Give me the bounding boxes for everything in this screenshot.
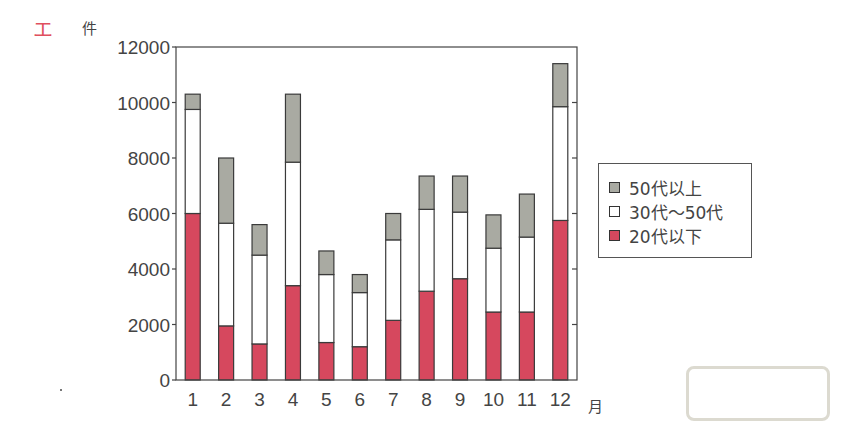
bar-segment xyxy=(185,109,200,213)
scan-speck xyxy=(60,389,62,391)
legend-item-20s-and-under: 20代以下 xyxy=(609,225,702,245)
x-tick-label: 9 xyxy=(455,390,466,409)
bar-segment xyxy=(252,344,267,380)
legend-item-30s-to-50s: 30代～50代 xyxy=(609,201,723,221)
y-tick-label: 2000 xyxy=(128,315,170,334)
bar-segment xyxy=(285,94,300,162)
legend-swatch-gray-icon xyxy=(609,182,620,193)
bar-segment xyxy=(519,194,534,237)
bar-segment xyxy=(386,320,401,380)
bar-segment xyxy=(486,248,501,312)
x-tick-label: 4 xyxy=(288,390,299,409)
bar-segment xyxy=(553,64,568,107)
x-tick-label: 10 xyxy=(483,390,504,409)
plot-frame xyxy=(176,47,577,380)
bar-segment xyxy=(252,255,267,344)
bar-segment xyxy=(419,291,434,380)
bar-segment xyxy=(486,312,501,380)
y-tick-label: 6000 xyxy=(128,204,170,223)
x-tick-label: 2 xyxy=(221,390,232,409)
bar-segment xyxy=(486,215,501,248)
bar-segment xyxy=(419,176,434,209)
bar-segment xyxy=(219,326,234,380)
bar-segment xyxy=(352,347,367,380)
bar-segment xyxy=(352,293,367,347)
x-tick-label: 5 xyxy=(321,390,332,409)
y-tick-label: 4000 xyxy=(128,260,170,279)
x-tick-label: 1 xyxy=(187,390,198,409)
legend-swatch-white-icon xyxy=(609,206,620,217)
bar-segment xyxy=(519,312,534,380)
bar-segment xyxy=(285,286,300,380)
bar-segment xyxy=(319,343,334,380)
bar-segment xyxy=(352,275,367,293)
bar-segment xyxy=(285,162,300,285)
legend-label: 20代以下 xyxy=(629,223,702,248)
legend-label: 30代～50代 xyxy=(629,199,723,224)
bar-segment xyxy=(319,275,334,343)
legend-swatch-red-icon xyxy=(609,230,620,241)
x-tick-label: 7 xyxy=(388,390,399,409)
bar-segment xyxy=(219,223,234,326)
bar-segment xyxy=(453,279,468,380)
bar-segment xyxy=(453,212,468,279)
chart-legend: 50代以上 30代～50代 20代以下 xyxy=(598,163,752,258)
y-tick-label: 0 xyxy=(159,371,170,390)
x-tick-label: 11 xyxy=(517,390,537,409)
x-tick-label: 8 xyxy=(421,390,432,409)
x-tick-label: 3 xyxy=(254,390,265,409)
bar-segment xyxy=(453,176,468,212)
bar-segment xyxy=(252,225,267,256)
bar-segment xyxy=(553,220,568,380)
y-tick-label: 12000 xyxy=(117,38,170,57)
bar-segment xyxy=(219,158,234,223)
x-tick-label: 6 xyxy=(354,390,365,409)
y-tick-label: 10000 xyxy=(117,93,170,112)
legend-label: 50代以上 xyxy=(629,175,702,200)
y-tick-label: 8000 xyxy=(128,149,170,168)
bar-segment xyxy=(185,214,200,381)
x-tick-label: 12 xyxy=(550,390,571,409)
bar-segment xyxy=(553,107,568,221)
bar-segment xyxy=(519,237,534,312)
bar-segment xyxy=(386,240,401,320)
bar-segment xyxy=(386,214,401,240)
answer-box[interactable] xyxy=(686,366,830,421)
bar-segment xyxy=(319,251,334,275)
legend-item-50s-and-over: 50代以上 xyxy=(609,177,702,197)
bar-segment xyxy=(185,94,200,109)
bar-segment xyxy=(419,209,434,291)
